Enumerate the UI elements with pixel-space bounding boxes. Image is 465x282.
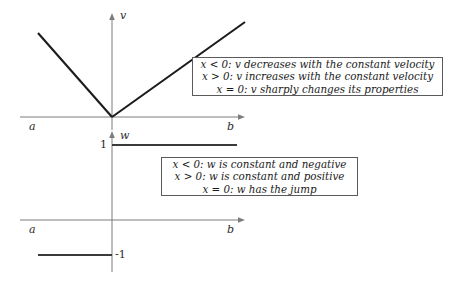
w-horizontal-axis-arrowhead — [238, 217, 245, 223]
w-vertical-axis-arrowhead — [109, 131, 115, 138]
w-panel-axes — [20, 131, 245, 272]
w-callout-line-2: x > 0: w is constant and positive — [175, 170, 345, 182]
v-axis-left-label: a — [29, 121, 36, 132]
v-callout-line-1-text: v decreases with the constant velocity — [235, 58, 435, 70]
v-callout-line-3: x = 0: v sharply changes its properties — [217, 83, 419, 95]
v-callout-line-2: x > 0: v increases with the constant vel… — [202, 70, 433, 82]
w-tick-label-negative-one: -1 — [115, 249, 126, 260]
v-callout-line-2-text: v increases with the constant velocity — [236, 70, 433, 82]
figure-canvas — [0, 0, 465, 282]
w-tick-label-positive-one: 1 — [100, 139, 107, 150]
w-callout-line-3-condition: x = 0: — [202, 183, 233, 195]
v-vertical-axis-arrowhead — [109, 13, 115, 20]
v-callout-line-1-condition: x < 0: — [201, 58, 232, 70]
w-callout-line-3-text: w has the jump — [237, 183, 317, 195]
v-callout-line-3-text: v sharply changes its properties — [251, 83, 419, 95]
w-callout-line-1: x < 0: w is constant and negative — [173, 158, 347, 170]
w-callout-line-1-text: w is constant and negative — [207, 158, 347, 170]
v-callout-box: x < 0: v decreases with the constant vel… — [192, 57, 443, 96]
v-callout-line-1: x < 0: v decreases with the constant vel… — [201, 58, 435, 70]
figure-root: v a b w 1 -1 a b x < 0: v decreases with… — [0, 0, 465, 282]
v-axis-label: v — [120, 10, 126, 21]
v-callout-line-3-condition: x = 0: — [217, 83, 248, 95]
w-axis-left-label: a — [29, 224, 36, 235]
v-horizontal-axis-arrowhead — [238, 114, 245, 120]
v-axis-right-label: b — [227, 121, 234, 132]
w-callout-line-2-text: w is constant and positive — [209, 170, 344, 182]
w-callout-line-1-condition: x < 0: — [173, 158, 204, 170]
w-callout-line-3: x = 0: w has the jump — [202, 183, 316, 195]
w-callout-box: x < 0: w is constant and negative x > 0:… — [161, 157, 358, 196]
w-axis-right-label: b — [227, 224, 234, 235]
v-callout-line-2-condition: x > 0: — [202, 70, 233, 82]
w-axis-label: w — [120, 130, 129, 141]
w-callout-line-2-condition: x > 0: — [175, 170, 206, 182]
v-left-branch — [38, 33, 112, 117]
